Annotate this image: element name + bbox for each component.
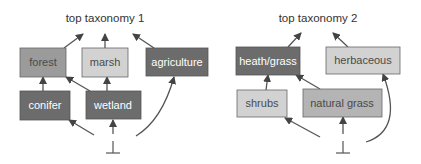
node-conifer: conifer <box>20 91 70 120</box>
edge-shrubs-heath-grass <box>266 75 268 90</box>
node-agriculture: agriculture <box>146 48 208 76</box>
node-herbaceous-label: herbaceous <box>334 54 392 66</box>
node-agriculture-label: agriculture <box>151 56 202 68</box>
node-heath-grass: heath/grass <box>236 47 300 75</box>
bottom-symbol-2 <box>336 141 350 153</box>
taxonomy-2-title: top taxonomy 2 <box>279 12 358 24</box>
taxonomy-1-title: top taxonomy 1 <box>66 12 145 24</box>
node-shrubs-label: shrubs <box>245 97 279 109</box>
edge-herbaceous-top <box>333 33 348 47</box>
bottom-symbol-1 <box>106 141 120 153</box>
edge-bottom-agriculture <box>136 77 174 136</box>
node-conifer-label: conifer <box>28 99 61 111</box>
node-wetland-label: wetland <box>93 99 132 111</box>
node-forest: forest <box>20 48 66 77</box>
edge-heath-grass-top <box>288 33 301 47</box>
node-forest-label: forest <box>29 56 57 68</box>
node-heath-grass-label: heath/grass <box>239 55 297 67</box>
taxonomy-diagrams: top taxonomy 1 forest marsh agriculture … <box>0 0 421 164</box>
taxonomy-1: top taxonomy 1 forest marsh agriculture … <box>20 12 208 153</box>
node-marsh-label: marsh <box>90 56 121 68</box>
edge-wetland-forest <box>66 77 90 91</box>
node-natural-grass: natural grass <box>303 89 382 117</box>
taxonomy-2: top taxonomy 2 heath/grass herbaceous sh… <box>236 12 400 153</box>
node-herbaceous: herbaceous <box>326 47 400 74</box>
node-wetland: wetland <box>86 91 141 119</box>
edge-bottom-conifer <box>69 120 94 135</box>
edge-bottom-shrubs <box>285 118 320 137</box>
edge-natural-grass-heath-grass <box>296 75 320 89</box>
node-marsh: marsh <box>82 48 128 77</box>
node-shrubs: shrubs <box>237 90 287 117</box>
edge-agriculture-top <box>133 34 154 48</box>
node-natural-grass-label: natural grass <box>310 97 374 109</box>
edge-forest-top <box>64 34 83 48</box>
